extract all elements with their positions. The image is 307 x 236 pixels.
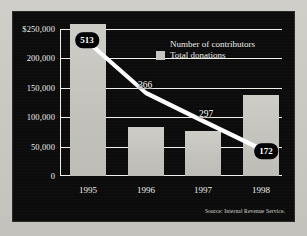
legend-item-donations: Total donations: [156, 50, 255, 61]
legend-label: Total donations: [170, 50, 226, 61]
bar-key-icon: [156, 51, 165, 60]
y-tick-label: 0: [51, 171, 55, 181]
source-note: Source: Internal Revenue Service.: [205, 208, 285, 214]
legend-label: Number of contributors: [170, 39, 255, 50]
chart-figure: $250,000 200,000 150,000 100,000 50,000 …: [0, 0, 307, 236]
y-tick-label: 150,000: [27, 83, 55, 93]
x-tick-label: 1995: [79, 185, 97, 195]
y-tick-label: $250,000: [22, 24, 55, 34]
legend: Number of contributors Total donations: [156, 39, 255, 61]
data-label-1995: 513: [76, 33, 99, 48]
y-tick-label: 200,000: [27, 53, 55, 63]
x-tick-label: 1996: [137, 185, 155, 195]
y-tick-label: 50,000: [31, 142, 55, 152]
line-key-icon: [156, 40, 165, 49]
data-label-1997: 297: [199, 109, 213, 119]
x-tick-label: 1998: [252, 185, 270, 195]
y-tick-label: 100,000: [27, 112, 55, 122]
data-label-1998: 172: [255, 144, 278, 159]
legend-item-contributors: Number of contributors: [156, 39, 255, 50]
data-label-1996: 366: [138, 80, 152, 90]
x-tick-label: 1997: [194, 185, 212, 195]
chart-panel: $250,000 200,000 150,000 100,000 50,000 …: [13, 12, 294, 221]
